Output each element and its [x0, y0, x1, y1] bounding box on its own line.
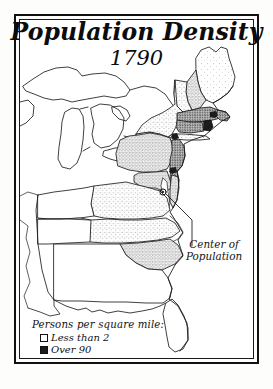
annotation-line-1: Center of [186, 239, 242, 251]
annotation-line-2: Population [186, 251, 242, 263]
legend-label-high-density: Over 90 [51, 344, 91, 355]
legend-item-over-90: Over 90 [40, 344, 164, 355]
legend-heading: Persons per square mile: [32, 319, 164, 330]
legend-swatch-high-density [40, 346, 48, 354]
state-pennsylvania [116, 133, 173, 172]
legend-item-less-than-2: Less than 2 [40, 332, 164, 343]
state-tennessee [38, 218, 91, 244]
map-drawing [20, 20, 253, 358]
legend-label-low-density: Less than 2 [51, 332, 109, 343]
map-canvas [20, 20, 253, 358]
legend-swatch-low-density [40, 334, 48, 342]
population-density-figure: Population Density 1790 Center of Popula… [0, 0, 273, 389]
map-legend: Persons per square mile: Less than 2 Ove… [32, 319, 164, 355]
center-of-population-dot [162, 191, 164, 193]
state-connecticut [176, 120, 204, 133]
annotation-center-of-population: Center of Population [186, 239, 242, 262]
